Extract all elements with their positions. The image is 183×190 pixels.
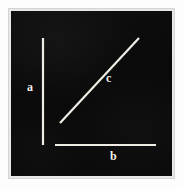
segment-c-label: c — [106, 72, 111, 84]
segment-c-line — [60, 38, 139, 123]
figure-root: a c b — [0, 0, 183, 190]
figure-drawing — [0, 0, 183, 190]
segment-b-label: b — [110, 150, 117, 162]
segment-a-label: a — [27, 81, 33, 93]
